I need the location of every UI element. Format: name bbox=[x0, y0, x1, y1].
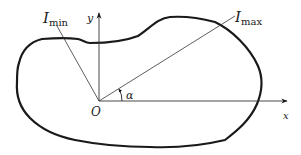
i-min-axis bbox=[57, 26, 99, 101]
principal-axes-diagram: Imin Imax y x O α bbox=[0, 0, 301, 155]
alpha-arc bbox=[119, 89, 122, 101]
i-max-axis bbox=[99, 16, 235, 101]
alpha-label: α bbox=[126, 89, 134, 102]
i-max-label: Imax bbox=[234, 8, 262, 27]
i-min-label: Imin bbox=[42, 9, 69, 28]
section-outline bbox=[17, 17, 262, 148]
diagram-canvas: Imin Imax y x O α bbox=[0, 0, 301, 155]
x-axis-label: x bbox=[283, 110, 289, 121]
origin-label: O bbox=[91, 105, 101, 119]
y-axis-label: y bbox=[86, 12, 94, 25]
